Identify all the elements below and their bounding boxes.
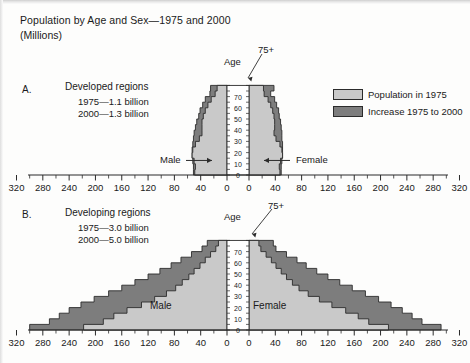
age-tick-label: 0: [236, 327, 240, 334]
age-tick-label: 70: [234, 248, 242, 255]
x-axis-tick-label: 40: [270, 182, 281, 193]
age-tick-label: 30: [234, 138, 242, 145]
scan-edge-top: [0, 0, 470, 4]
age-tick-label: 60: [234, 104, 242, 111]
x-axis-tick-label: 160: [114, 337, 130, 348]
x-axis-tick-label: 280: [425, 182, 441, 193]
x-axis-tick-label: 240: [399, 337, 415, 348]
page-title: Population by Age and Sex—1975 and 2000: [20, 14, 231, 26]
age-tick-label: 50: [234, 271, 242, 278]
female-label: Female: [253, 300, 286, 311]
age-tick-label: 30: [234, 293, 242, 300]
x-axis-tick-label: 160: [114, 182, 130, 193]
x-axis-tick-label: 240: [399, 182, 415, 193]
pyramid-plot-area: [0, 200, 470, 360]
page-subtitle: (Millions): [20, 29, 62, 41]
x-axis-tick-label: 200: [373, 182, 389, 193]
age-75plus-leader-line: [248, 54, 262, 78]
x-axis-tick-label: 0: [246, 182, 251, 193]
male-label: Male: [150, 300, 172, 311]
x-axis-tick-label: 120: [320, 182, 336, 193]
age-tick-label: 10: [234, 315, 242, 322]
age-tick-label: 70: [234, 93, 242, 100]
age-tick-label: 20: [234, 304, 242, 311]
x-axis-tick-label: 280: [35, 182, 51, 193]
x-axis-tick-label: 0: [224, 182, 229, 193]
x-axis-tick-label: 80: [296, 182, 307, 193]
x-axis-tick-label: 40: [270, 337, 281, 348]
x-axis-tick-label: 200: [88, 182, 104, 193]
x-axis-tick-label: 160: [346, 337, 362, 348]
age-tick-label: 40: [234, 127, 242, 134]
age-75plus-label: 75+: [258, 44, 274, 55]
x-axis-tick-label: 280: [35, 337, 51, 348]
x-axis-tick-label: 200: [88, 337, 104, 348]
male-label: Male: [160, 154, 181, 165]
x-axis-tick-label: 40: [195, 337, 206, 348]
age-75plus-label: 75+: [268, 200, 284, 211]
x-axis-tick-label: 200: [373, 337, 389, 348]
x-axis-tick-label: 320: [9, 337, 25, 348]
x-axis-tick-label: 80: [169, 182, 180, 193]
x-axis-tick-label: 320: [9, 182, 25, 193]
x-axis-tick-label: 240: [61, 182, 77, 193]
x-axis-tick-label: 40: [195, 182, 206, 193]
x-axis-tick-label: 0: [224, 337, 229, 348]
x-axis-tick-label: 0: [246, 337, 251, 348]
x-axis-tick-label: 80: [169, 337, 180, 348]
age-axis-caption: Age: [224, 56, 241, 67]
age-tick-label: 0: [236, 172, 240, 179]
age-75plus-leader-line: [252, 209, 272, 234]
x-axis-tick-label: 280: [425, 337, 441, 348]
x-axis-tick-label: 240: [61, 337, 77, 348]
age-tick-label: 20: [234, 149, 242, 156]
pyramid-chart-developing: [0, 200, 470, 360]
x-axis-tick-label: 120: [320, 337, 336, 348]
x-axis-tick-label: 320: [452, 182, 468, 193]
female-label: Female: [296, 154, 328, 165]
age-tick-label: 50: [234, 116, 242, 123]
age-tick-label: 60: [234, 259, 242, 266]
x-axis-tick-label: 120: [140, 182, 156, 193]
x-axis-tick-label: 160: [346, 182, 362, 193]
x-axis-tick-label: 120: [140, 337, 156, 348]
x-axis-tick-label: 80: [296, 337, 307, 348]
x-axis-tick-label: 320: [452, 337, 468, 348]
age-tick-label: 40: [234, 282, 242, 289]
age-tick-label: 10: [234, 160, 242, 167]
age-axis-caption: Age: [224, 211, 241, 222]
